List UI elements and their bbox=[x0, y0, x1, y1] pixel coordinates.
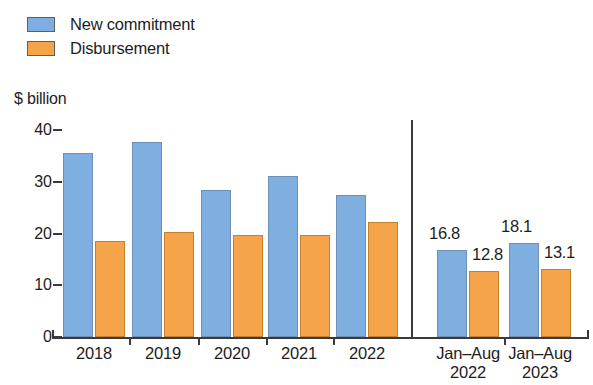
bar-disbursement-2022 bbox=[368, 222, 398, 337]
x-axis-label-janaug2023: Jan–Aug2023 bbox=[480, 344, 593, 382]
bar-new-commitment-2018 bbox=[63, 153, 93, 337]
y-tick-dash bbox=[53, 129, 62, 131]
bar-disbursement-2019 bbox=[164, 232, 194, 337]
x-axis-label-line2: 2023 bbox=[480, 363, 593, 382]
y-tick-dash bbox=[53, 233, 62, 235]
bar-disbursement-janaug2022 bbox=[469, 271, 499, 337]
data-label-new-commitment-janaug2022: 16.8 bbox=[429, 224, 460, 243]
data-label-disbursement-janaug2023: 13.1 bbox=[544, 243, 575, 262]
bar-new-commitment-janaug2023 bbox=[509, 243, 539, 337]
bar-chart: New commitment Disbursement $ billion 01… bbox=[0, 0, 593, 385]
bar-new-commitment-2021 bbox=[268, 176, 298, 337]
y-tick-label: 10 bbox=[34, 276, 52, 294]
bar-disbursement-janaug2023 bbox=[541, 269, 571, 337]
data-label-new-commitment-janaug2023: 18.1 bbox=[501, 217, 532, 236]
x-axis-left-cap bbox=[52, 330, 54, 339]
y-tick-label: 20 bbox=[34, 225, 52, 243]
x-axis-right-cap bbox=[587, 330, 589, 339]
data-label-disbursement-janaug2022: 12.8 bbox=[472, 245, 503, 264]
y-tick-label: 40 bbox=[34, 121, 52, 139]
bar-disbursement-2018 bbox=[95, 241, 125, 337]
y-tick-label: 30 bbox=[34, 173, 52, 191]
y-tick-dash bbox=[53, 181, 62, 183]
bar-new-commitment-2022 bbox=[336, 195, 366, 337]
bar-new-commitment-2019 bbox=[132, 142, 162, 337]
bar-new-commitment-janaug2022 bbox=[437, 250, 467, 337]
period-separator-line bbox=[411, 120, 413, 338]
x-axis-line bbox=[52, 337, 589, 339]
x-axis-label-line1: Jan–Aug bbox=[480, 344, 593, 363]
bar-disbursement-2021 bbox=[300, 235, 330, 337]
bar-disbursement-2020 bbox=[233, 235, 263, 337]
plot-area: 010203040 20182019202020212022Jan–Aug202… bbox=[0, 0, 593, 385]
y-tick-dash bbox=[53, 284, 62, 286]
bar-new-commitment-2020 bbox=[201, 190, 231, 337]
